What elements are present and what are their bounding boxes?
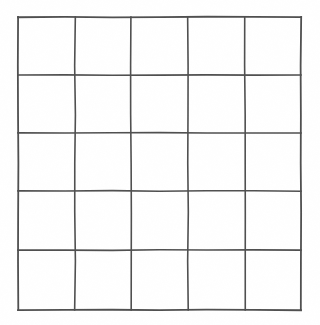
grid-cell-r5c4[interactable] <box>188 252 245 311</box>
grid-cell-r2c5[interactable] <box>245 75 302 134</box>
grid-cell-r1c1[interactable] <box>18 16 75 75</box>
grid-body <box>18 16 302 311</box>
grid-cell-r3c3[interactable] <box>132 134 189 193</box>
grid-cell-r2c3[interactable] <box>132 75 189 134</box>
grid-cell-r2c4[interactable] <box>188 75 245 134</box>
grid-cell-r2c1[interactable] <box>18 75 75 134</box>
grid-cell-r1c4[interactable] <box>188 16 245 75</box>
grid-cell-r4c2[interactable] <box>75 193 132 252</box>
grid-cell-r2c2[interactable] <box>75 75 132 134</box>
grid-cell-r3c2[interactable] <box>75 134 132 193</box>
grid-cell-r4c1[interactable] <box>18 193 75 252</box>
grid-cell-r3c4[interactable] <box>188 134 245 193</box>
grid-cell-r4c5[interactable] <box>245 193 302 252</box>
grid-row <box>18 193 302 252</box>
grid-cell-r3c5[interactable] <box>245 134 302 193</box>
grid-row <box>18 134 302 193</box>
grid-cell-r4c4[interactable] <box>188 193 245 252</box>
grid-cell-r3c1[interactable] <box>18 134 75 193</box>
grid-cell-r5c2[interactable] <box>75 252 132 311</box>
grid-cell-r1c2[interactable] <box>75 16 132 75</box>
grid-cell-r5c1[interactable] <box>18 252 75 311</box>
grid-row <box>18 75 302 134</box>
grid-row <box>18 252 302 311</box>
grid-cell-r1c3[interactable] <box>132 16 189 75</box>
grid <box>18 16 302 311</box>
grid-cell-r5c3[interactable] <box>132 252 189 311</box>
grid-cell-r4c3[interactable] <box>132 193 189 252</box>
grid-cell-r1c5[interactable] <box>245 16 302 75</box>
grid-row <box>18 16 302 75</box>
grid-table <box>18 16 302 311</box>
grid-cell-r5c5[interactable] <box>245 252 302 311</box>
